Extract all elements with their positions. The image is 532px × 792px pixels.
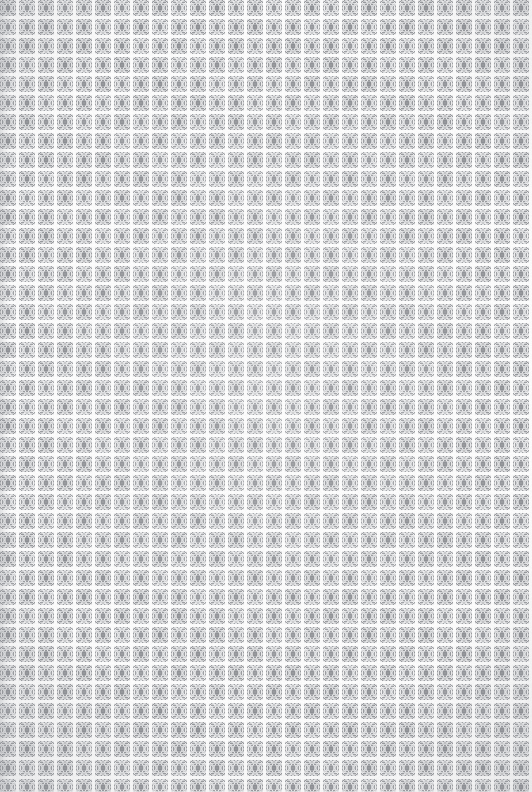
woven-grid-texture-canvas	[0, 0, 532, 792]
texture-surface	[0, 0, 532, 792]
